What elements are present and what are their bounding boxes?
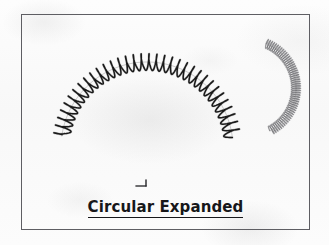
- figure-page: Circular Expanded: [0, 0, 329, 245]
- figure-caption-label: Circular Expanded: [88, 198, 244, 218]
- figure-caption: Circular Expanded: [21, 198, 310, 218]
